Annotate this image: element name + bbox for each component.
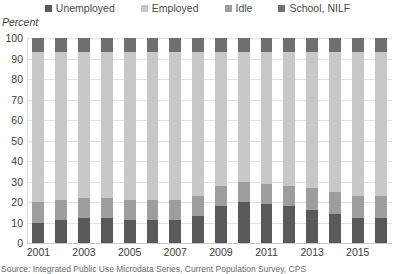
bar-column[interactable] [352, 38, 364, 243]
bar-segment-unemployed [375, 218, 387, 243]
bar-segment-employed [352, 52, 364, 196]
bar-segment-idle [101, 198, 113, 219]
bar-column[interactable] [261, 38, 273, 243]
gridline-0 [27, 243, 392, 244]
y-axis-title: Percent [2, 16, 38, 28]
bar-column[interactable] [124, 38, 136, 243]
legend-item-idle[interactable]: Idle [225, 3, 253, 14]
bar-segment-school-nilf [329, 38, 341, 52]
bar-segment-idle [78, 198, 90, 219]
bar-segment-school-nilf [169, 38, 181, 52]
bar-segment-employed [215, 52, 227, 185]
bar-segment-school-nilf [215, 38, 227, 52]
bar-segment-employed [375, 52, 387, 196]
bar-segment-unemployed [101, 218, 113, 243]
bar-segment-idle [55, 200, 67, 221]
bar-column[interactable] [78, 38, 90, 243]
bar-segment-unemployed [352, 218, 364, 243]
bar-column[interactable] [55, 38, 67, 243]
x-tick-label-2009: 2009 [209, 247, 232, 258]
y-tick-label-0: 0 [0, 238, 23, 249]
legend-label-idle: Idle [236, 3, 253, 14]
bar-segment-school-nilf [147, 38, 159, 52]
bar-segment-unemployed [32, 223, 44, 244]
bar-segment-idle [352, 196, 364, 219]
bar-segment-idle [147, 200, 159, 221]
legend-label-employed: Employed [152, 3, 199, 14]
legend-label-unemployed: Unemployed [56, 3, 115, 14]
bar-column[interactable] [375, 38, 387, 243]
y-tick-label-80: 80 [0, 74, 23, 85]
bar-segment-employed [55, 52, 67, 200]
y-tick-label-10: 10 [0, 218, 23, 229]
bar-column[interactable] [215, 38, 227, 243]
bar-segment-employed [283, 52, 295, 185]
y-tick-label-70: 70 [0, 95, 23, 106]
bar-column[interactable] [101, 38, 113, 243]
bar-segment-school-nilf [124, 38, 136, 52]
bar-segment-idle [192, 196, 204, 217]
bar-segment-school-nilf [375, 38, 387, 52]
bar-segment-school-nilf [192, 38, 204, 52]
bar-segment-idle [169, 200, 181, 221]
bar-segment-idle [32, 202, 44, 223]
y-tick-label-60: 60 [0, 115, 23, 126]
x-axis-tick-labels: 20012003200520072009201120132015 [27, 247, 392, 261]
bar-segment-employed [329, 52, 341, 191]
bar-segment-unemployed [329, 214, 341, 243]
source-note: Source: Integrated Public Use Microdata … [1, 264, 395, 274]
bar-column[interactable] [32, 38, 44, 243]
y-tick-label-100: 100 [0, 33, 23, 44]
bar-segment-unemployed [55, 220, 67, 243]
bar-column[interactable] [329, 38, 341, 243]
bar-segment-idle [306, 188, 318, 211]
bar-segment-school-nilf [32, 38, 44, 52]
bar-segment-school-nilf [101, 38, 113, 52]
legend-item-unemployed[interactable]: Unemployed [45, 3, 115, 14]
bar-series-group [27, 38, 392, 243]
bar-segment-idle [283, 186, 295, 207]
bar-segment-unemployed [169, 220, 181, 243]
legend-label-school-nilf: School, NILF [289, 3, 350, 14]
legend-swatch-idle [225, 5, 232, 12]
x-tick-label-2011: 2011 [255, 247, 278, 258]
bar-column[interactable] [238, 38, 250, 243]
bar-segment-employed [124, 52, 136, 200]
bar-segment-idle [238, 182, 250, 203]
bar-segment-employed [238, 52, 250, 181]
y-tick-label-50: 50 [0, 136, 23, 147]
bar-column[interactable] [306, 38, 318, 243]
bar-segment-idle [375, 196, 387, 219]
plot-area [27, 38, 392, 243]
bar-segment-unemployed [192, 216, 204, 243]
bar-column[interactable] [147, 38, 159, 243]
bar-segment-unemployed [147, 220, 159, 243]
bar-column[interactable] [169, 38, 181, 243]
x-tick-label-2015: 2015 [346, 247, 369, 258]
bar-segment-school-nilf [78, 38, 90, 52]
y-tick-label-30: 30 [0, 177, 23, 188]
bar-segment-employed [101, 52, 113, 198]
bar-segment-idle [124, 200, 136, 221]
bar-segment-employed [169, 52, 181, 200]
x-tick-label-2005: 2005 [118, 247, 141, 258]
x-tick-label-2001: 2001 [27, 247, 50, 258]
bar-segment-unemployed [238, 202, 250, 243]
bar-segment-idle [261, 184, 273, 205]
y-tick-label-20: 20 [0, 197, 23, 208]
bar-segment-unemployed [78, 218, 90, 243]
bar-segment-employed [261, 52, 273, 183]
chart-legend: Unemployed Employed Idle School, NILF [0, 1, 395, 16]
bar-segment-unemployed [306, 210, 318, 243]
bar-segment-school-nilf [261, 38, 273, 52]
x-tick-label-2003: 2003 [72, 247, 95, 258]
bar-column[interactable] [283, 38, 295, 243]
bar-segment-employed [147, 52, 159, 200]
bar-segment-unemployed [261, 204, 273, 243]
bar-column[interactable] [192, 38, 204, 243]
legend-item-employed[interactable]: Employed [141, 3, 199, 14]
bar-segment-school-nilf [238, 38, 250, 52]
bar-segment-school-nilf [306, 38, 318, 52]
legend-item-school-nilf[interactable]: School, NILF [278, 3, 350, 14]
legend-swatch-employed [141, 5, 148, 12]
